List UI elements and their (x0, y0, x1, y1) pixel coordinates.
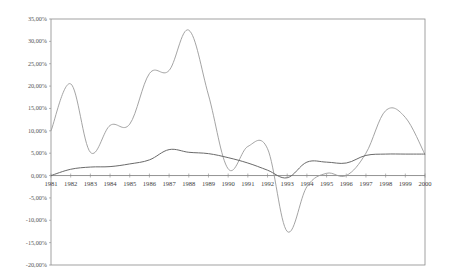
y-tick-label: -10,00% (26, 216, 47, 223)
series-a-line (51, 30, 425, 232)
line-chart: 35,00%30,00%25,00%20,00%15,00%10,00%5,00… (0, 0, 449, 277)
plot-area-frame (51, 19, 425, 265)
y-tick-label: -15,00% (26, 239, 47, 246)
y-tick-label: 20,00% (28, 82, 47, 89)
y-tick-label: 10,00% (28, 127, 47, 134)
y-axis-tick-labels: 35,00%30,00%25,00%20,00%15,00%10,00%5,00… (26, 15, 47, 268)
x-tick-label: 1992 (261, 180, 274, 187)
x-tick-label: 1995 (320, 180, 334, 187)
x-tick-label: 1981 (44, 180, 57, 187)
x-tick-label: 1996 (340, 180, 354, 187)
x-tick-label: 1997 (359, 180, 373, 187)
y-tick-label: 25,00% (28, 60, 47, 67)
x-tick-label: 1986 (143, 180, 157, 187)
y-tick-label: 30,00% (28, 37, 47, 44)
y-tick-label: 5,00% (31, 149, 47, 156)
x-tick-label: 1984 (103, 180, 117, 187)
x-tick-label: 1989 (202, 180, 216, 187)
x-tick-label: 1998 (379, 180, 393, 187)
x-tick-label: 1988 (182, 180, 196, 187)
x-tick-label: 1991 (241, 180, 254, 187)
x-tick-label: 1987 (163, 180, 177, 187)
y-tick-label: -5,00% (29, 194, 47, 201)
series-b-line (51, 149, 425, 178)
x-tick-label: 1983 (84, 180, 98, 187)
y-tick-label: -20,00% (26, 261, 47, 268)
x-tick-label: 1990 (222, 180, 236, 187)
x-tick-label: 1985 (123, 180, 137, 187)
x-axis-tick-labels: 1981198219831984198519861987198819891990… (44, 180, 432, 187)
x-tick-label: 2000 (418, 180, 432, 187)
y-tick-label: 0,00% (31, 172, 47, 179)
x-tick-label: 1982 (64, 180, 77, 187)
y-tick-label: 15,00% (28, 104, 47, 111)
x-tick-label: 1999 (399, 180, 413, 187)
y-tick-label: 35,00% (28, 15, 47, 22)
x-tick-label: 1993 (281, 180, 295, 187)
